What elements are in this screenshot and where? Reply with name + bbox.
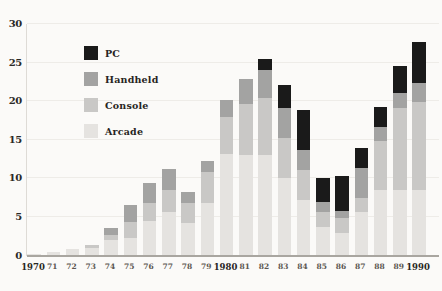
bar-segment-85-pc <box>316 178 330 203</box>
bar-segment-1990-arcade <box>412 190 426 256</box>
bar-86 <box>335 176 349 255</box>
legend-swatch-pc <box>84 46 98 60</box>
bar-segment-89-handheld <box>393 93 407 108</box>
legend-item-arcade: Arcade <box>84 124 158 138</box>
bar-segment-89-arcade <box>393 190 407 256</box>
bar-segment-89-console <box>393 108 407 190</box>
y-axis-tick-label-0: 0 <box>0 250 22 261</box>
x-axis-tick-label-1990: 1990 <box>405 262 431 272</box>
bar-segment-83-console <box>278 138 292 178</box>
bar-segment-77-arcade <box>162 212 176 255</box>
bar-segment-81-console <box>239 104 253 156</box>
bar-segment-87-arcade <box>355 212 369 255</box>
gridline-30 <box>27 23 439 24</box>
bar-76 <box>143 183 157 256</box>
bar-segment-88-pc <box>374 107 388 128</box>
legend-item-handheld: Handheld <box>84 72 158 86</box>
bar-segment-83-pc <box>278 85 292 108</box>
bar-1990 <box>412 42 426 256</box>
bar-73 <box>85 245 99 255</box>
legend-item-console: Console <box>84 98 158 112</box>
bar-85 <box>316 178 330 256</box>
legend-swatch-arcade <box>84 124 98 138</box>
bar-78 <box>181 192 195 255</box>
bar-segment-74-arcade <box>104 240 118 255</box>
legend-label-arcade: Arcade <box>105 126 143 137</box>
bar-segment-1980-console <box>220 117 234 153</box>
legend: PCHandheldConsoleArcade <box>84 46 158 150</box>
bar-segment-86-handheld <box>335 211 349 219</box>
stacked-bar-chart-figure: 051015202530 197071727374757677787919808… <box>0 0 442 291</box>
bar-segment-85-console <box>316 212 330 227</box>
bar-segment-87-pc <box>355 148 369 168</box>
y-axis-tick-label-10: 10 <box>0 172 22 183</box>
bar-segment-78-console <box>181 203 195 223</box>
y-axis-tick-label-15: 15 <box>0 134 22 145</box>
bar-segment-1990-console <box>412 102 426 190</box>
bar-segment-86-pc <box>335 176 349 211</box>
bar-segment-1990-handheld <box>412 83 426 102</box>
bar-segment-82-console <box>258 98 272 155</box>
bar-segment-76-console <box>143 203 157 221</box>
y-axis-tick-label-5: 5 <box>0 211 22 222</box>
bar-segment-87-console <box>355 198 369 212</box>
bar-segment-86-arcade <box>335 233 349 255</box>
bar-segment-88-arcade <box>374 190 388 256</box>
bar-segment-78-arcade <box>181 223 195 255</box>
bar-segment-88-console <box>374 141 388 190</box>
bar-segment-74-handheld <box>104 228 118 236</box>
bar-segment-82-pc <box>258 59 272 71</box>
bar-segment-79-console <box>201 172 215 203</box>
bar-81 <box>239 79 253 256</box>
bar-87 <box>355 148 369 255</box>
legend-swatch-console <box>84 98 98 112</box>
bar-segment-79-arcade <box>201 203 215 255</box>
bar-77 <box>162 169 176 255</box>
legend-item-pc: PC <box>84 46 158 60</box>
bar-segment-82-handheld <box>258 70 272 98</box>
bar-segment-84-pc <box>297 110 311 149</box>
legend-label-handheld: Handheld <box>105 74 158 85</box>
bar-segment-77-console <box>162 190 176 212</box>
bar-segment-83-arcade <box>278 178 292 255</box>
bar-segment-79-handheld <box>201 161 215 173</box>
bar-segment-84-console <box>297 170 311 200</box>
bar-segment-87-handheld <box>355 168 369 198</box>
bar-88 <box>374 107 388 256</box>
bar-segment-86-console <box>335 218 349 233</box>
bar-89 <box>393 66 407 256</box>
bar-segment-81-handheld <box>239 79 253 104</box>
y-axis-tick-label-30: 30 <box>0 18 22 29</box>
bar-segment-82-arcade <box>258 155 272 255</box>
legend-label-pc: PC <box>105 48 120 59</box>
bar-74 <box>104 228 118 256</box>
bar-segment-77-handheld <box>162 169 176 190</box>
legend-swatch-handheld <box>84 72 98 86</box>
bar-segment-89-pc <box>393 66 407 93</box>
bar-79 <box>201 161 215 256</box>
bar-segment-88-handheld <box>374 127 388 141</box>
bar-segment-75-handheld <box>124 205 138 222</box>
bar-segment-1980-arcade <box>220 154 234 256</box>
bar-1980 <box>220 100 234 255</box>
bar-segment-76-arcade <box>143 221 157 256</box>
bar-segment-78-handheld <box>181 192 195 203</box>
bar-segment-1990-pc <box>412 42 426 83</box>
bar-segment-75-console <box>124 222 138 237</box>
bar-75 <box>124 205 138 255</box>
y-axis-tick-label-25: 25 <box>0 57 22 68</box>
bar-segment-85-handheld <box>316 202 330 212</box>
bar-segment-75-arcade <box>124 238 138 256</box>
bar-segment-83-handheld <box>278 108 292 138</box>
bar-segment-81-arcade <box>239 155 253 255</box>
bar-segment-84-arcade <box>297 200 311 256</box>
x-axis-line <box>27 255 439 257</box>
bar-segment-76-handheld <box>143 183 157 203</box>
bar-84 <box>297 110 311 255</box>
bar-segment-85-arcade <box>316 227 330 256</box>
bar-83 <box>278 85 292 256</box>
bar-segment-1980-handheld <box>220 100 234 117</box>
bar-82 <box>258 59 272 256</box>
legend-label-console: Console <box>105 100 149 111</box>
bar-segment-84-handheld <box>297 150 311 170</box>
